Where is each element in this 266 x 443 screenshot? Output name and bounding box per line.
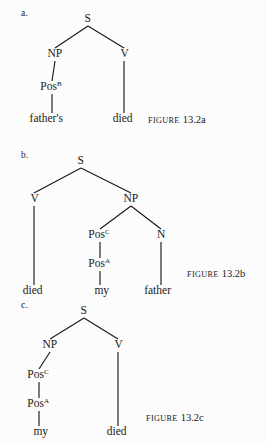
tree-edges — [52, 26, 124, 113]
tree-node: NP — [124, 192, 139, 204]
tree-node: S — [85, 12, 91, 24]
figure-caption: Figure13.2b — [187, 268, 245, 279]
tree-branch — [88, 26, 124, 48]
tree-branch — [100, 206, 131, 229]
node-label: Pos — [27, 397, 44, 409]
tree-leaf: died — [107, 425, 127, 437]
tree-nodes: SNPVPosCPosAmydied — [27, 304, 127, 438]
tree-node: V — [120, 47, 129, 59]
figure-caption: Figure13.2c — [146, 412, 204, 423]
tree-branch — [34, 168, 81, 193]
figure-page: a.SNPVPosBfather'sdiedb.SVNPPosCNPosAdie… — [0, 0, 266, 443]
tree-graph: SNPVPosBfather'sdied — [0, 0, 266, 142]
tree-branch — [84, 318, 118, 339]
node-label: Pos — [88, 228, 105, 240]
node-label: my — [33, 425, 48, 438]
node-label: V — [30, 192, 39, 204]
node-label: father's — [30, 112, 64, 124]
tree-leaf: my — [33, 425, 48, 438]
tree-node: PosC — [27, 368, 49, 380]
node-superscript: B — [57, 80, 62, 88]
tree-graph: SNPVPosCPosAmydied — [0, 292, 266, 443]
tree-node: PosA — [27, 397, 49, 409]
tree-branch — [55, 26, 88, 48]
tree-node: V — [30, 192, 39, 204]
figure-caption-word: Figure — [187, 270, 219, 279]
tree-node: N — [157, 228, 166, 240]
tree-node: PosC — [88, 228, 110, 240]
tree-branch — [39, 352, 50, 369]
tree-edges — [39, 318, 118, 426]
node-label: S — [81, 304, 87, 316]
tree-node: NP — [43, 338, 58, 350]
node-superscript: C — [44, 368, 49, 376]
figure-caption-number: 13.2a — [183, 114, 206, 125]
node-label: died — [113, 112, 133, 124]
tree-block-a: a.SNPVPosBfather'sdied — [0, 0, 266, 142]
figure-caption-number: 13.2c — [181, 412, 204, 423]
node-label: NP — [43, 338, 58, 350]
node-label: died — [107, 425, 127, 437]
tree-node: S — [81, 304, 87, 316]
tree-node: S — [78, 154, 84, 166]
node-label: V — [114, 338, 123, 350]
node-superscript: A — [105, 257, 110, 265]
tree-block-c: c.SNPVPosCPosAmydied — [0, 292, 266, 443]
node-label: NP — [124, 192, 139, 204]
figure-caption-word: Figure — [146, 414, 178, 423]
tree-nodes: SNPVPosBfather'sdied — [30, 12, 133, 124]
tree-node: PosB — [40, 80, 62, 92]
figure-caption: Figure13.2a — [148, 114, 206, 125]
tree-branch — [81, 168, 131, 193]
node-label: V — [120, 47, 129, 59]
node-superscript: C — [105, 228, 110, 236]
tree-branch — [52, 61, 55, 81]
node-label: Pos — [27, 368, 44, 380]
tree-leaf: died — [113, 112, 133, 124]
tree-node: V — [114, 338, 123, 350]
node-label: S — [85, 12, 91, 24]
figure-caption-word: Figure — [148, 116, 180, 125]
figure-caption-number: 13.2b — [222, 268, 246, 279]
node-label: Pos — [40, 80, 57, 92]
tree-leaf: father's — [30, 112, 64, 124]
tree-node: PosA — [88, 257, 110, 269]
node-label: Pos — [88, 257, 105, 269]
tree-branch — [131, 206, 161, 229]
tree-branch — [50, 318, 84, 339]
node-label: S — [78, 154, 84, 166]
node-label: NP — [48, 47, 63, 59]
node-superscript: A — [44, 397, 49, 405]
node-label: N — [157, 228, 166, 240]
tree-node: NP — [48, 47, 63, 59]
